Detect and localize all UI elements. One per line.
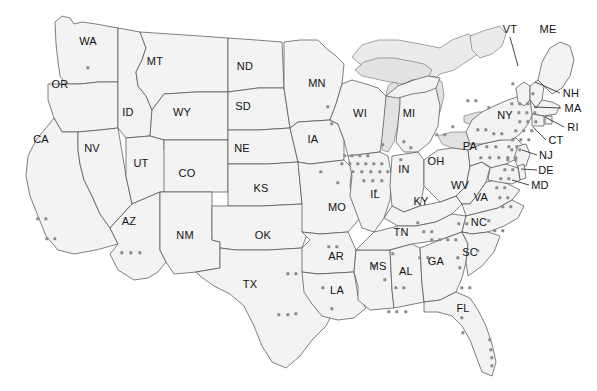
state-label-nm: NM [176,229,194,241]
state-label-de: DE [538,164,554,176]
state-label-sc: SC [462,246,478,258]
state-label-nh: NH [563,87,579,99]
state-label-ms: MS [370,260,387,272]
state-label-co: CO [179,167,196,179]
state-label-tx: TX [243,278,257,290]
state-label-ok: OK [255,229,271,241]
state-label-fl: FL [456,302,469,314]
state-label-nv: NV [84,142,100,154]
state-label-in: IN [398,163,409,175]
state-label-ny: NY [497,109,513,121]
state-label-ri: RI [567,121,578,133]
state-label-oh: OH [428,155,445,167]
state-label-la: LA [330,284,344,296]
state-label-me: ME [540,23,557,35]
state-label-wv: WV [451,179,469,191]
state-label-tn: TN [393,226,408,238]
state-label-sd: SD [235,100,251,112]
state-label-ne: NE [234,142,250,154]
state-label-vt: VT [503,23,517,35]
us-map-container: WAORCANVIDMTWYUTAZCONMNDSDNEKSOKTXMNIAMO… [0,0,597,391]
state-label-ca: CA [33,133,49,145]
state-label-pa: PA [463,140,477,152]
state-label-wy: WY [173,106,191,118]
state-label-ma: MA [565,102,582,114]
state-label-ky: KY [413,195,428,207]
state-label-wi: WI [353,107,367,119]
state-label-mi: MI [403,107,416,119]
state-label-md: MD [531,179,549,191]
state-label-ia: IA [308,133,319,145]
state-label-il: IL [370,188,380,200]
state-label-id: ID [122,106,133,118]
state-label-mn: MN [308,77,326,89]
state-label-az: AZ [122,215,136,227]
state-label-ga: GA [428,255,444,267]
state-labels-layer: WAORCANVIDMTWYUTAZCONMNDSDNEKSOKTXMNIAMO… [0,0,597,391]
state-label-nc: NC [471,216,487,228]
state-label-va: VA [474,191,488,203]
state-label-nd: ND [237,60,253,72]
state-label-ct: CT [548,134,563,146]
state-label-al: AL [399,265,413,277]
state-label-nj: NJ [539,149,553,161]
state-label-or: OR [52,78,69,90]
state-label-ar: AR [328,250,344,262]
state-label-wa: WA [79,35,97,47]
state-label-ut: UT [133,157,148,169]
state-label-mo: MO [328,201,346,213]
state-label-mt: MT [147,55,163,67]
state-label-ks: KS [253,182,268,194]
